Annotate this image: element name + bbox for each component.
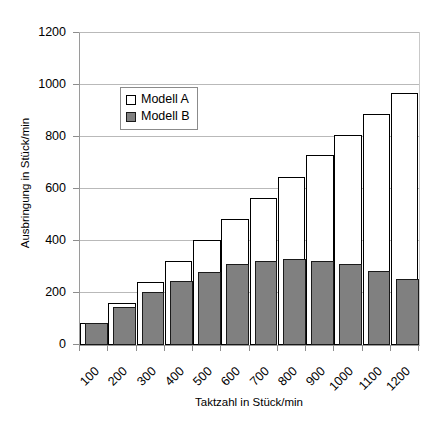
x-axis-tick-mark: [390, 345, 391, 351]
filled-square-icon: [126, 112, 136, 122]
legend-label-modell-a: Modell A: [141, 93, 189, 106]
y-axis-tick-label: 1000: [20, 78, 66, 90]
bar-slot: [80, 33, 108, 345]
bar-slot: [278, 33, 306, 345]
bar-modell-b: [311, 261, 334, 346]
x-axis-tick-mark: [277, 345, 278, 351]
bar-modell-b: [142, 292, 165, 345]
legend-item-modell-b: Modell B: [126, 108, 190, 125]
bar-modell-b: [339, 264, 362, 345]
x-axis-tick-mark: [333, 345, 334, 351]
bar-slot: [306, 33, 334, 345]
bar-slot: [391, 33, 419, 345]
y-axis-tick-label: 1200: [20, 26, 66, 38]
bar-slot: [108, 33, 136, 345]
x-axis-tick-mark: [362, 345, 363, 351]
bar-slot: [363, 33, 391, 345]
plot-area: [79, 32, 420, 346]
y-axis-tick-label: 400: [20, 234, 66, 246]
x-axis-tick-mark: [164, 345, 165, 351]
bar-modell-b: [283, 259, 306, 345]
bar-slot: [165, 33, 193, 345]
bar-modell-b: [255, 261, 278, 345]
x-axis-tick-mark: [136, 345, 137, 351]
bar-slot: [221, 33, 249, 345]
x-axis-tick-mark: [249, 345, 250, 351]
bar-modell-b: [226, 264, 249, 345]
legend-item-modell-a: Modell A: [126, 91, 190, 108]
bar-modell-b: [198, 272, 221, 345]
y-axis-tick-label: 200: [20, 286, 66, 298]
x-axis-tick-mark: [107, 345, 108, 351]
legend-label-modell-b: Modell B: [141, 110, 190, 123]
bar-slot: [334, 33, 362, 345]
bar-slot: [137, 33, 165, 345]
bar-modell-b: [368, 271, 391, 345]
hollow-square-icon: [126, 95, 136, 105]
y-axis-tick-label: 600: [20, 182, 66, 194]
y-axis-tick-label: 0: [20, 338, 66, 350]
chart-legend: Modell A Modell B: [120, 87, 198, 130]
x-axis-title: Taktzahl in Stück/min: [79, 396, 419, 408]
bar-slot: [250, 33, 278, 345]
bar-modell-b: [113, 307, 136, 345]
x-axis-tick-mark: [220, 345, 221, 351]
bar-modell-b: [85, 323, 108, 345]
bar-slot: [193, 33, 221, 345]
x-axis-tick-mark: [418, 345, 419, 351]
x-axis-tick-mark: [305, 345, 306, 351]
x-axis-tick-mark: [192, 345, 193, 351]
chart-figure: Ausbringung in Stück/min 020040060080010…: [0, 0, 441, 426]
y-axis-tick-label: 800: [20, 130, 66, 142]
bar-modell-b: [396, 279, 419, 345]
x-axis-tick-mark: [79, 345, 80, 351]
bar-modell-b: [170, 281, 193, 345]
